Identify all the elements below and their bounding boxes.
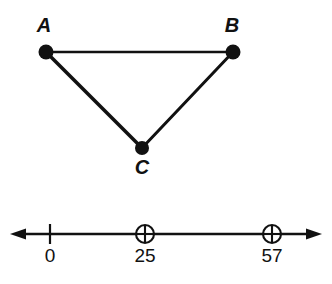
tick-label-0: 0 <box>45 245 56 266</box>
triangle-abc: A B C <box>36 14 241 178</box>
edge-bc <box>142 52 233 148</box>
marker-57 <box>263 225 281 243</box>
vertex-label-c: C <box>135 156 150 178</box>
vertex-dot-a <box>39 45 54 60</box>
tick-label-57: 57 <box>261 245 282 266</box>
tick-label-25: 25 <box>134 245 155 266</box>
vertex-dot-c <box>135 141 149 155</box>
figure-canvas: A B C 0 25 57 <box>0 0 332 284</box>
number-line: 0 25 57 <box>10 224 322 266</box>
vertex-label-b: B <box>225 14 239 36</box>
marker-25 <box>136 225 154 243</box>
vertex-dot-b <box>226 45 241 60</box>
vertex-label-a: A <box>36 14 51 36</box>
number-line-left-arrow <box>10 229 26 240</box>
geometry-figure: A B C 0 25 57 <box>0 0 332 284</box>
edge-ac <box>46 52 142 148</box>
number-line-right-arrow <box>306 229 322 240</box>
